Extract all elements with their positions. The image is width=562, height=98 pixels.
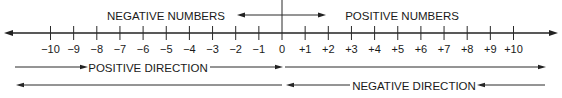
tick-labels: −10−9−8−7−6−5−4−3−2−10+1+2+3+4+5+6+7+8+9… <box>41 43 523 55</box>
tick-label: −3 <box>206 43 219 55</box>
tick-label: −4 <box>183 43 196 55</box>
tick-label: +4 <box>368 43 381 55</box>
negative-direction-row: NEGATIVE DIRECTION <box>16 80 545 92</box>
tick-label: +3 <box>345 43 358 55</box>
right-arrowhead-icon <box>318 13 326 18</box>
tick-label: −1 <box>253 43 266 55</box>
positive-dir-arrowhead-icon <box>275 65 283 69</box>
tick-label: +6 <box>415 43 428 55</box>
positive-numbers-heading: POSITIVE NUMBERS <box>345 10 459 22</box>
tick-label: −7 <box>114 43 127 55</box>
tick-label: +5 <box>391 43 404 55</box>
tick-label: −2 <box>229 43 242 55</box>
tick-label: +2 <box>322 43 335 55</box>
tick-label: −6 <box>137 43 150 55</box>
axis-right-arrowhead-icon <box>549 30 558 36</box>
positive-dir-arrowhead-icon <box>80 65 88 69</box>
tick-label: +8 <box>461 43 474 55</box>
tick-label: −5 <box>160 43 173 55</box>
left-arrowhead-icon <box>237 13 245 18</box>
tick-label: +1 <box>299 43 312 55</box>
positive-direction-label: POSITIVE DIRECTION <box>88 62 208 74</box>
tick-label: −8 <box>91 43 104 55</box>
number-line-diagram: NEGATIVE NUMBERS POSITIVE NUMBERS −10−9−… <box>0 0 562 98</box>
positive-direction-row: POSITIVE DIRECTION <box>15 62 546 74</box>
axis-left-arrowhead-icon <box>4 30 13 36</box>
positive-dir-arrowhead-icon <box>538 65 546 69</box>
negative-numbers-heading: NEGATIVE NUMBERS <box>107 10 225 22</box>
negative-direction-label: NEGATIVE DIRECTION <box>352 80 476 92</box>
tick-label: +9 <box>484 43 497 55</box>
main-axis <box>4 30 558 36</box>
tick-label: −10 <box>41 43 60 55</box>
tick-label: −9 <box>67 43 80 55</box>
tick-label: 0 <box>279 43 285 55</box>
tick-label: +10 <box>504 43 523 55</box>
tick-label: +7 <box>438 43 451 55</box>
